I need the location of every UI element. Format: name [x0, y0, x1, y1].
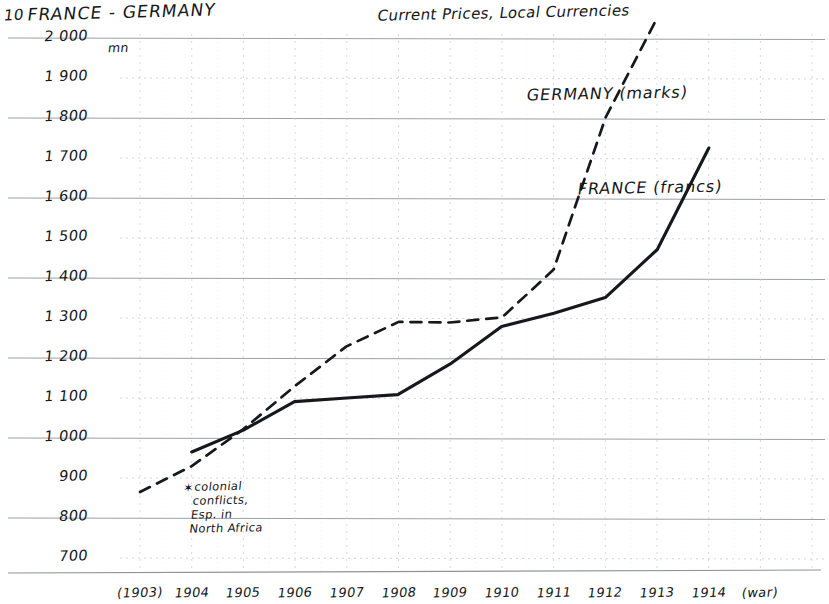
grid-line-minor	[120, 558, 825, 559]
x-axis-tick-label: 1913	[639, 585, 676, 601]
grid-line-minor	[120, 158, 825, 159]
grid-line-major	[8, 38, 825, 40]
y-axis-tick-label: 1 600	[27, 187, 89, 204]
y-axis-tick-label: 1 300	[27, 307, 89, 324]
grid-line-major	[8, 358, 825, 360]
y-axis-tick-label: 1 000	[27, 427, 89, 444]
x-axis-baseline	[8, 570, 821, 573]
series-label-france: FRANCE (francs)	[576, 177, 723, 199]
y-axis-tick-label: 800	[27, 507, 89, 524]
y-axis-tick-label: 1 400	[27, 267, 89, 284]
x-axis-tick-label: 1907	[328, 585, 365, 601]
annotation-star-icon: ✶	[182, 481, 194, 495]
grid-line-major	[8, 278, 825, 280]
grid-major-lines	[8, 38, 825, 520]
y-axis-tick-label: 1 100	[27, 387, 89, 404]
y-axis-tick-label: 900	[27, 467, 89, 484]
grid-line-major	[8, 198, 825, 200]
y-axis-tick-label: 2 000	[27, 27, 89, 44]
grid-line-minor	[120, 238, 825, 239]
y-axis-tick-label: 1 500	[27, 227, 89, 244]
y-axis-unit-label: mn	[107, 40, 130, 55]
chart-page: 10 FRANCE - GERMANY Current Prices, Loca…	[0, 0, 829, 604]
grid-line-minor	[120, 318, 825, 319]
grid-line-minor	[120, 78, 825, 79]
x-axis-tick-label: 1906	[277, 585, 314, 601]
x-axis-tick-label: 1914	[690, 585, 727, 601]
x-axis-tick-label: (war)	[741, 585, 779, 601]
x-axis-tick-label: 1905	[225, 585, 262, 601]
grid-line-minor	[120, 398, 825, 399]
grid-line-major	[8, 518, 825, 520]
x-axis-tick-label: (1903)	[116, 584, 164, 600]
x-axis-tick-label: 1909	[432, 585, 469, 601]
grid-line-major	[8, 118, 825, 120]
y-axis-tick-label: 1 700	[27, 147, 89, 164]
x-axis-tick-label: 1904	[173, 585, 210, 601]
series-label-germany: GERMANY (marks)	[525, 82, 689, 104]
x-axis-tick-label: 1912	[587, 585, 624, 601]
x-axis-tick-label: 1910	[483, 585, 520, 601]
y-axis-tick-label: 700	[27, 547, 89, 564]
y-axis-tick-label: 1 800	[27, 107, 89, 124]
annotation-colonial-conflicts: ✶ colonialconflicts,Esp. inNorth Africa	[189, 478, 269, 536]
y-axis-tick-label: 1 900	[27, 67, 89, 84]
grid-line-major	[8, 438, 825, 440]
annotation-line: North Africa	[189, 520, 264, 536]
y-axis-tick-label: 1 200	[27, 347, 89, 364]
chart-plot-area	[0, 0, 829, 604]
x-axis-tick-label: 1908	[380, 585, 417, 601]
x-axis-tick-label: 1911	[535, 585, 572, 601]
